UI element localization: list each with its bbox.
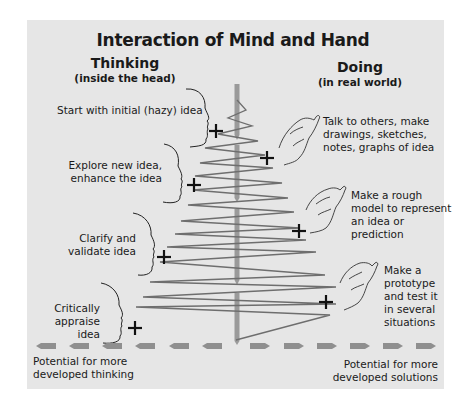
dashed-axis-arrow	[36, 343, 436, 349]
hand-icon	[279, 116, 378, 310]
spiral-diagram	[0, 0, 466, 408]
head-profile-icon	[101, 89, 209, 343]
